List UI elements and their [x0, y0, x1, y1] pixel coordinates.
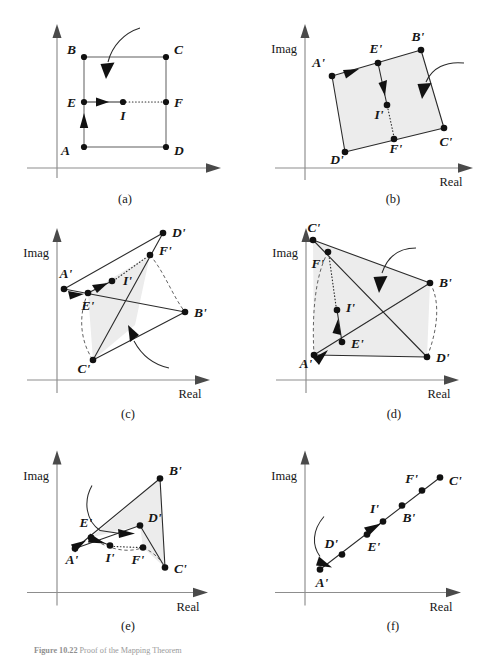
panel-tag-b: (b) — [386, 192, 401, 206]
label-c: C' — [174, 561, 187, 576]
label-c: C' — [308, 220, 321, 235]
vertex-c — [163, 54, 169, 60]
label-a: A' — [65, 552, 79, 567]
vertex-e — [88, 534, 95, 541]
vertex-b — [427, 280, 434, 287]
label-b: B' — [411, 29, 425, 44]
panel-tag-f: (f) — [387, 619, 400, 633]
label-b: B' — [168, 463, 182, 478]
label-i: I' — [122, 273, 132, 288]
label-e: E' — [350, 336, 364, 351]
axis-label-real: Real — [428, 387, 451, 401]
vertex-c — [162, 564, 169, 571]
label-e: E' — [369, 41, 383, 56]
panel-tag-e: (e) — [121, 619, 135, 633]
vertex-b — [418, 47, 425, 54]
axis-label-imag: Imag — [23, 246, 49, 260]
axis-label-real: Real — [440, 175, 463, 189]
vertex-b — [157, 475, 164, 482]
rotation-arc — [426, 63, 464, 82]
axis-label-imag: Imag — [272, 246, 298, 260]
vertex-b — [81, 54, 87, 60]
figure-root: A B C D E F I (a) — [0, 0, 500, 659]
label-i: I' — [373, 107, 383, 122]
label-d: D' — [171, 225, 186, 240]
vertex-i — [109, 278, 116, 285]
y-axis-arrowhead — [53, 24, 62, 38]
label-c: C' — [449, 473, 462, 488]
vertex-i — [384, 102, 391, 109]
label-f: F' — [389, 141, 403, 156]
label-f: F' — [404, 471, 418, 486]
label-d: D — [173, 143, 184, 158]
vertex-i — [380, 518, 387, 525]
vertex-d — [137, 522, 144, 529]
y-axis-arrowhead — [53, 228, 62, 242]
vertex-i — [120, 99, 126, 105]
arrow-a-to-e — [80, 113, 88, 128]
label-c: C' — [440, 134, 453, 149]
label-a: A' — [311, 55, 325, 70]
label-i: I — [119, 108, 126, 123]
vertex-f — [419, 487, 426, 494]
panel-a: A B C D E F I (a) — [0, 0, 250, 215]
x-axis-arrowhead — [206, 163, 221, 172]
label-d: D' — [435, 350, 450, 365]
vertex-f — [140, 544, 147, 551]
vertex-e — [81, 99, 87, 105]
vertex-d — [339, 551, 346, 558]
vertex-e — [339, 339, 346, 346]
label-e: E — [66, 95, 76, 110]
axis-label-imag: Imag — [271, 469, 297, 483]
fold-arc-right — [150, 255, 185, 312]
x-axis-arrowhead — [458, 163, 473, 172]
panel-b: A' B' C' D' E' F' I' Imag Real (b) — [250, 0, 500, 215]
axis-label-real: Real — [430, 600, 453, 614]
axis-label-real: Real — [179, 387, 202, 401]
vertex-b — [399, 502, 406, 509]
panel-c: A' B' C' D' E' F' I' Imag Real (c) — [0, 215, 250, 430]
label-e: E' — [367, 539, 381, 554]
vertex-e — [375, 60, 382, 67]
vertex-a — [81, 144, 87, 150]
arrow-e-to-i — [96, 98, 109, 107]
y-axis-arrowhead — [53, 451, 62, 465]
vertex-c — [441, 125, 448, 132]
label-a: A' — [315, 575, 329, 590]
x-axis-arrowhead — [195, 375, 210, 384]
label-f: F' — [158, 243, 172, 258]
axis-label-real: Real — [177, 600, 200, 614]
label-e: E' — [79, 515, 93, 530]
vertex-i — [334, 307, 341, 314]
label-a: A — [60, 143, 70, 158]
panel-tag-a: (a) — [118, 192, 132, 206]
panel-e: A' B' C' D' E' F' I' Imag Real (e) — [0, 430, 250, 645]
figure-caption-label: Figure 10.22 — [34, 646, 78, 655]
vertex-d — [424, 354, 431, 361]
vertex-d — [163, 144, 169, 150]
label-b: B' — [438, 275, 452, 290]
label-b: B' — [402, 510, 416, 525]
label-i: I' — [104, 550, 114, 565]
vertex-f — [163, 99, 169, 105]
axis-label-imag: Imag — [23, 469, 49, 483]
panel-grid: A B C D E F I (a) — [0, 0, 500, 640]
panel-tag-d: (d) — [387, 407, 402, 421]
label-f: F — [173, 95, 183, 110]
x-axis-arrowhead — [193, 588, 208, 597]
label-b: B' — [193, 305, 207, 320]
vertex-e — [85, 290, 92, 297]
label-d: D' — [147, 510, 162, 525]
vertex-c — [437, 474, 444, 481]
label-a: A' — [299, 356, 313, 371]
figure-caption: Figure 10.22 Proof of the Mapping Theore… — [34, 645, 474, 659]
panel-f: A' D' E' I' B' F' C' Imag Real (f) — [250, 430, 500, 645]
vertex-a — [317, 566, 324, 573]
label-f: F' — [311, 256, 325, 271]
vertex-f — [147, 252, 154, 259]
segment-i-f — [114, 547, 140, 548]
label-i: I' — [369, 501, 379, 516]
vertex-i — [107, 542, 114, 549]
vertex-e — [364, 531, 371, 538]
x-axis-arrowhead — [444, 375, 459, 384]
